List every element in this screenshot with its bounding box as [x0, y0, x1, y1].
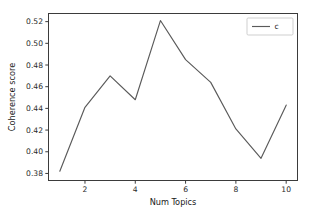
x-tick-label: 2 [83, 185, 88, 194]
x-tick-label: 8 [233, 185, 238, 194]
coherence-score-line-chart: 0.380.400.420.440.460.480.500.52246810Nu… [0, 0, 315, 222]
chart-figure: 0.380.400.420.440.460.480.500.52246810Nu… [0, 0, 315, 222]
plot-area-background [49, 14, 298, 181]
y-tick-label: 0.52 [26, 17, 43, 26]
legend-label: c [275, 22, 279, 31]
y-tick-label: 0.48 [26, 61, 43, 70]
y-tick-label: 0.50 [26, 39, 43, 48]
y-tick-label: 0.40 [26, 147, 43, 156]
x-tick-label: 10 [281, 185, 291, 194]
x-tick-label: 6 [183, 185, 188, 194]
y-tick-label: 0.44 [26, 104, 43, 113]
y-tick-label: 0.46 [26, 82, 43, 91]
x-axis-title: Num Topics [150, 197, 197, 207]
y-axis-title: Coherence score [7, 63, 17, 132]
x-tick-label: 4 [133, 185, 138, 194]
y-tick-label: 0.42 [26, 126, 43, 135]
y-tick-label: 0.38 [26, 169, 43, 178]
